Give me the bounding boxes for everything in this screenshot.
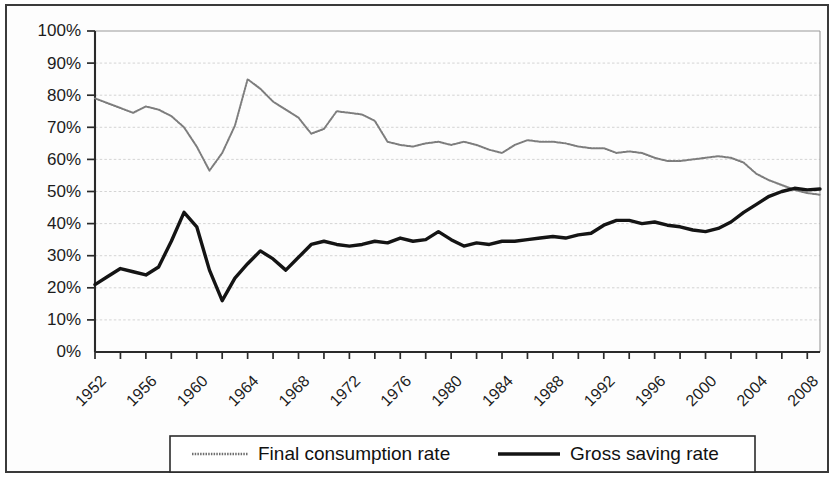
x-tick-label: 1952: [72, 372, 109, 409]
x-tick-label: 1956: [123, 372, 160, 409]
gridlines: [95, 63, 820, 320]
data-series: [95, 79, 820, 300]
legend-label-final-consumption-rate: Final consumption rate: [258, 443, 450, 464]
y-tick-label: 30%: [47, 246, 81, 265]
x-tick-label: 1960: [174, 372, 211, 409]
x-tick-label: 1992: [581, 372, 618, 409]
chart-figure: 0%10%20%30%40%50%60%70%80%90%100% 195219…: [0, 0, 835, 479]
y-tick-label: 80%: [47, 86, 81, 105]
x-tick-label: 1980: [428, 372, 465, 409]
x-tick-label: 1964: [225, 372, 262, 409]
x-tick-label: 1984: [479, 372, 516, 409]
x-tick-label: 1996: [632, 372, 669, 409]
legend-label-gross-saving-rate: Gross saving rate: [570, 443, 719, 464]
series-line-final-consumption-rate: [95, 79, 820, 195]
x-axis: 1952195619601964196819721976198019841988…: [72, 352, 822, 409]
x-tick-label: 1976: [377, 372, 414, 409]
x-tick-label: 1972: [326, 372, 363, 409]
y-tick-label: 0%: [56, 342, 81, 361]
y-tick-label: 50%: [47, 182, 81, 201]
y-tick-label: 20%: [47, 278, 81, 297]
x-tick-label: 2008: [784, 372, 821, 409]
y-tick-label: 100%: [38, 21, 81, 40]
y-tick-label: 40%: [47, 214, 81, 233]
series-line-gross-saving-rate: [95, 188, 820, 300]
x-tick-label: 2000: [682, 372, 719, 409]
y-tick-label: 60%: [47, 150, 81, 169]
y-axis: 0%10%20%30%40%50%60%70%80%90%100%: [38, 21, 95, 361]
x-tick-label: 2004: [733, 372, 770, 409]
y-tick-label: 10%: [47, 310, 81, 329]
x-tick-label: 1988: [530, 372, 567, 409]
y-tick-label: 70%: [47, 118, 81, 137]
chart-canvas: 0%10%20%30%40%50%60%70%80%90%100% 195219…: [0, 0, 835, 479]
chart-legend: Final consumption rateGross saving rate: [170, 436, 755, 472]
y-tick-label: 90%: [47, 54, 81, 73]
x-tick-label: 1968: [275, 372, 312, 409]
